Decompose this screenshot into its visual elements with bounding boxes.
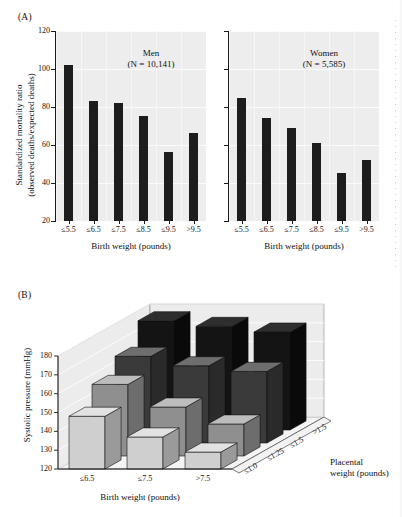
panel-a-women-ytickmark-100 xyxy=(224,69,228,70)
panel-a-bar xyxy=(164,152,173,221)
panel-b-y-tick-label: 130 xyxy=(26,445,52,454)
panel-a-men-ytickmark-40 xyxy=(51,183,55,184)
panel-a-bar xyxy=(337,173,346,221)
panel-a-x-tick-mark xyxy=(119,221,120,224)
panel-a-y-axis-title-line1: Standardized mortality ratio xyxy=(14,85,24,186)
panel-a-men-ytickmark-80 xyxy=(51,107,55,108)
panel-a-men-x-axis-title: Birth weight (pounds) xyxy=(56,241,206,251)
panel-b-bar-front xyxy=(69,416,105,469)
panel-a-x-tick-mark xyxy=(317,221,318,224)
panel-b-y-tick-label: 140 xyxy=(26,426,52,435)
panel-a-ytick-120: 120 xyxy=(28,26,50,35)
panel-a-women-ytickmark-60 xyxy=(224,145,228,146)
panel-a-x-tick-mark xyxy=(194,221,195,224)
panel-a-ytick-80: 80 xyxy=(28,102,50,111)
panel-b-z-axis-title-line2: weight (pounds) xyxy=(330,468,389,478)
panel-a-women-title-line2: (N = 5,585) xyxy=(303,59,345,69)
panel-b-y-tick-label: 170 xyxy=(26,370,52,379)
panel-a-label: (A) xyxy=(18,12,32,22)
panel-a-women-y-axis-line xyxy=(228,31,229,222)
panel-a-bar xyxy=(262,118,271,221)
panel-a-women-ytickmark-20 xyxy=(224,221,228,222)
panel-a-x-tick-label: >9.5 xyxy=(350,225,384,234)
panel-b-x-tick-label: >7.5 xyxy=(183,474,223,483)
panel-a-bar xyxy=(139,116,148,221)
panel-a-men-group-title: Men (N = 10,141) xyxy=(96,48,206,70)
panel-b-bar-side xyxy=(267,362,283,443)
panel-a-x-tick-mark xyxy=(292,221,293,224)
panel-b-x-tick-label: ≤7.5 xyxy=(125,474,165,483)
panel-a-vertical-gridline xyxy=(81,31,82,221)
panel-b-y-tick-label: 120 xyxy=(26,464,52,473)
panel-b-y-tick-label: 150 xyxy=(26,408,52,417)
panel-b-bar-side xyxy=(105,407,121,469)
panel-b-bar-front xyxy=(127,437,163,469)
panel-a-vertical-gridline xyxy=(254,31,255,221)
panel-a-women-x-axis-title: Birth weight (pounds) xyxy=(229,241,379,251)
figure-root: (A) Standardized mortality ratio (observ… xyxy=(0,0,402,517)
panel-a-bar xyxy=(89,101,98,221)
panel-b-z-axis-title-line1: Placental xyxy=(330,457,363,467)
panel-a-bar xyxy=(287,128,296,221)
panel-a-vertical-gridline xyxy=(56,31,57,221)
panel-a-x-tick-mark xyxy=(242,221,243,224)
panel-a-ytick-100: 100 xyxy=(28,64,50,73)
panel-a-x-tick-mark xyxy=(94,221,95,224)
panel-a-x-tick-mark xyxy=(342,221,343,224)
panel-a-ytick-20: 20 xyxy=(28,216,50,225)
panel-a-bar xyxy=(114,103,123,221)
panel-a-bar xyxy=(362,160,371,221)
panel-a-x-tick-label: >9.5 xyxy=(177,225,211,234)
panel-a-men-y-axis-line xyxy=(55,31,56,222)
panel-a-x-tick-mark xyxy=(267,221,268,224)
panel-b-bar-front xyxy=(185,452,221,469)
panel-a-bar xyxy=(312,143,321,221)
panel-a-x-tick-mark xyxy=(169,221,170,224)
panel-a-ytick-40: 40 xyxy=(28,178,50,187)
panel-a-women-ytickmark-80 xyxy=(224,107,228,108)
panel-a-x-tick-mark xyxy=(367,221,368,224)
panel-a-x-tick-mark xyxy=(69,221,70,224)
panel-b-x-axis-title: Birth weight (pounds) xyxy=(45,492,235,502)
panel-a-women-ytickmark-120 xyxy=(224,31,228,32)
panel-b-z-axis-title: Placental weight (pounds) xyxy=(330,457,389,479)
panel-a-men-title-line1: Men xyxy=(143,48,160,58)
panel-a-bar xyxy=(237,98,246,221)
panel-a-ytick-60: 60 xyxy=(28,140,50,149)
panel-a-men-title-line2: (N = 10,141) xyxy=(128,59,175,69)
panel-b-x-tick-label: ≤6.5 xyxy=(67,474,107,483)
panel-a-vertical-gridline xyxy=(229,31,230,221)
panel-a-bar xyxy=(64,65,73,221)
panel-a-women-ytickmark-40 xyxy=(224,183,228,184)
panel-a-x-tick-mark xyxy=(144,221,145,224)
panel-a-men-ytickmark-60 xyxy=(51,145,55,146)
panel-b-bar-side xyxy=(290,323,306,430)
panel-a-men-ytickmark-100 xyxy=(51,69,55,70)
panel-b-bar xyxy=(127,428,179,469)
panel-a-men-ytickmark-20 xyxy=(51,221,55,222)
panel-b-y-tick-label: 160 xyxy=(26,389,52,398)
panel-a-bar xyxy=(189,133,198,221)
panel-b-bar xyxy=(69,407,121,469)
panel-b-y-tick-label: 180 xyxy=(26,351,52,360)
page-scan-edge-marks xyxy=(395,20,396,270)
panel-a-men-ytickmark-120 xyxy=(51,31,55,32)
panel-a-women-title-line1: Women xyxy=(310,48,338,58)
panel-a-women-group-title: Women (N = 5,585) xyxy=(269,48,379,70)
